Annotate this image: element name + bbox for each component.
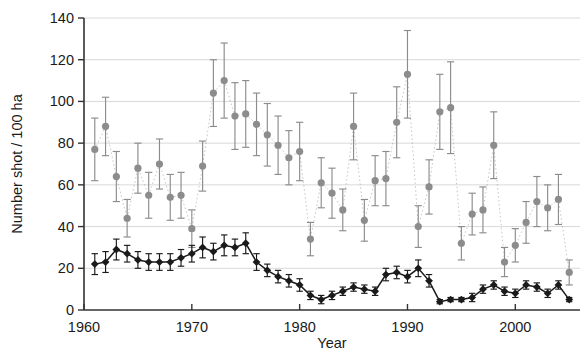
chart-container: 02040608010012014019601970198019902000Ye… bbox=[0, 0, 582, 354]
y-tick-label: 20 bbox=[58, 260, 74, 276]
gridlines bbox=[84, 18, 580, 268]
data-point-marker bbox=[544, 204, 551, 211]
y-tick-label: 80 bbox=[58, 135, 74, 151]
data-point-marker bbox=[264, 131, 271, 138]
data-point-marker bbox=[210, 89, 217, 96]
data-point-marker bbox=[490, 142, 497, 149]
data-point-marker bbox=[533, 283, 541, 291]
data-point-marker bbox=[91, 146, 98, 153]
y-tick-label: 0 bbox=[66, 302, 74, 318]
data-point-marker bbox=[436, 298, 444, 306]
y-tick-label: 40 bbox=[58, 219, 74, 235]
data-point-marker bbox=[512, 242, 519, 249]
data-point-marker bbox=[339, 287, 347, 295]
data-point-marker bbox=[361, 217, 368, 224]
data-point-marker bbox=[123, 250, 131, 258]
data-point-marker bbox=[307, 235, 314, 242]
data-point-marker bbox=[91, 260, 99, 268]
data-point-marker bbox=[328, 190, 335, 197]
data-point-marker bbox=[167, 194, 174, 201]
data-point-marker bbox=[490, 281, 498, 289]
data-point-marker bbox=[533, 198, 540, 205]
y-axis-title: Number shot / 100 ha bbox=[9, 93, 25, 233]
y-tick-label: 120 bbox=[50, 52, 74, 68]
data-point-marker bbox=[371, 287, 379, 295]
series-grey bbox=[91, 31, 573, 285]
data-point-marker bbox=[328, 292, 336, 300]
data-point-marker bbox=[372, 177, 379, 184]
data-point-marker bbox=[382, 271, 390, 279]
data-point-marker bbox=[242, 239, 250, 247]
x-axis-ticks: 19601970198019902000 bbox=[68, 304, 532, 335]
series-black bbox=[91, 233, 573, 306]
data-point-marker bbox=[425, 183, 432, 190]
data-point-marker bbox=[124, 215, 131, 222]
data-point-marker bbox=[522, 219, 529, 226]
data-point-marker bbox=[350, 123, 357, 130]
data-point-marker bbox=[253, 121, 260, 128]
data-point-marker bbox=[555, 196, 562, 203]
data-point-marker bbox=[436, 108, 443, 115]
y-tick-label: 100 bbox=[50, 93, 74, 109]
data-point-marker bbox=[274, 273, 282, 281]
data-point-marker bbox=[393, 269, 401, 277]
data-point-marker bbox=[415, 223, 422, 230]
data-point-marker bbox=[188, 225, 195, 232]
y-tick-label: 140 bbox=[50, 10, 74, 26]
x-tick-label: 2000 bbox=[499, 319, 531, 335]
data-point-marker bbox=[393, 119, 400, 126]
y-axis-ticks: 020406080100120140 bbox=[50, 10, 84, 318]
data-point-marker bbox=[209, 248, 217, 256]
data-point-marker bbox=[458, 240, 465, 247]
data-point-marker bbox=[102, 123, 109, 130]
data-point-marker bbox=[317, 296, 325, 304]
data-point-marker bbox=[296, 148, 303, 155]
data-point-marker bbox=[177, 192, 184, 199]
data-point-marker bbox=[285, 277, 293, 285]
data-point-marker bbox=[469, 210, 476, 217]
data-point-marker bbox=[360, 285, 368, 293]
data-point-marker bbox=[221, 77, 228, 84]
data-point-marker bbox=[166, 258, 174, 266]
data-point-marker bbox=[145, 258, 153, 266]
data-point-marker bbox=[134, 256, 142, 264]
x-tick-label: 1990 bbox=[391, 319, 423, 335]
data-point-marker bbox=[145, 192, 152, 199]
data-point-marker bbox=[220, 241, 228, 249]
data-point-marker bbox=[231, 112, 238, 119]
data-point-marker bbox=[156, 258, 164, 266]
data-point-marker bbox=[479, 206, 486, 213]
x-tick-label: 1980 bbox=[284, 319, 316, 335]
line-chart: 02040608010012014019601970198019902000Ye… bbox=[0, 0, 582, 354]
data-point-marker bbox=[501, 287, 509, 295]
data-point-marker bbox=[188, 250, 196, 258]
y-tick-label: 60 bbox=[58, 177, 74, 193]
data-point-marker bbox=[350, 283, 358, 291]
data-point-marker bbox=[382, 175, 389, 182]
data-point-marker bbox=[134, 165, 141, 172]
x-tick-label: 1960 bbox=[68, 319, 100, 335]
data-point-marker bbox=[177, 254, 185, 262]
data-point-marker bbox=[447, 296, 455, 304]
data-point-marker bbox=[457, 296, 465, 304]
data-point-marker bbox=[113, 173, 120, 180]
data-point-marker bbox=[274, 142, 281, 149]
data-point-marker bbox=[199, 244, 207, 252]
data-point-marker bbox=[242, 110, 249, 117]
data-point-marker bbox=[447, 104, 454, 111]
x-axis-title: Year bbox=[317, 335, 346, 351]
x-tick-label: 1970 bbox=[176, 319, 208, 335]
data-point-marker bbox=[318, 179, 325, 186]
data-point-marker bbox=[156, 160, 163, 167]
data-point-marker bbox=[566, 269, 573, 276]
data-point-marker bbox=[501, 258, 508, 265]
data-point-marker bbox=[285, 154, 292, 161]
data-point-marker bbox=[231, 244, 239, 252]
data-point-marker bbox=[404, 71, 411, 78]
data-point-marker bbox=[339, 206, 346, 213]
data-point-marker bbox=[199, 162, 206, 169]
